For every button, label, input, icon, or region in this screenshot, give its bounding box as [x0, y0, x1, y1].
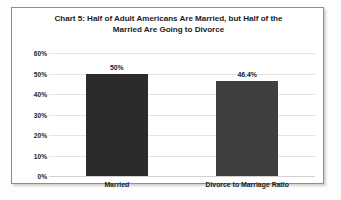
- y-axis-tick-label: 0%: [21, 173, 47, 180]
- bar-group: 46.4%Divorce to Marriage Ratio: [216, 53, 278, 176]
- y-axis-tick-label: 20%: [21, 132, 47, 139]
- chart-title: Chart 5: Half of Adult Americans Are Mar…: [26, 13, 311, 36]
- bar-value-label: 46.4%: [202, 71, 292, 79]
- gridline: [49, 176, 315, 177]
- chart-card: Chart 5: Half of Adult Americans Are Mar…: [11, 7, 324, 184]
- chart-title-line-1: Chart 5: Half of Adult Americans Are Mar…: [26, 13, 311, 24]
- x-axis-category-label: Divorce to Marriage Ratio: [182, 180, 312, 189]
- chart-page: Chart 5: Half of Adult Americans Are Mar…: [0, 0, 341, 200]
- y-axis-tick-label: 50%: [21, 70, 47, 77]
- y-axis-tick-label: 10%: [21, 152, 47, 159]
- bar-value-label: 50%: [72, 64, 162, 72]
- plot-area: 50%Married46.4%Divorce to Marriage Ratio: [49, 53, 315, 176]
- y-axis-tick-label: 30%: [21, 111, 47, 118]
- x-axis-category-label: Married: [52, 180, 182, 189]
- y-axis: 0%10%20%30%40%50%60%: [17, 53, 47, 176]
- bar[interactable]: [216, 81, 278, 176]
- bar[interactable]: [86, 74, 148, 177]
- chart-title-line-2: Married Are Going to Divorce: [26, 24, 311, 35]
- y-axis-tick-label: 40%: [21, 91, 47, 98]
- y-axis-tick-label: 60%: [21, 50, 47, 57]
- bar-group: 50%Married: [86, 53, 148, 176]
